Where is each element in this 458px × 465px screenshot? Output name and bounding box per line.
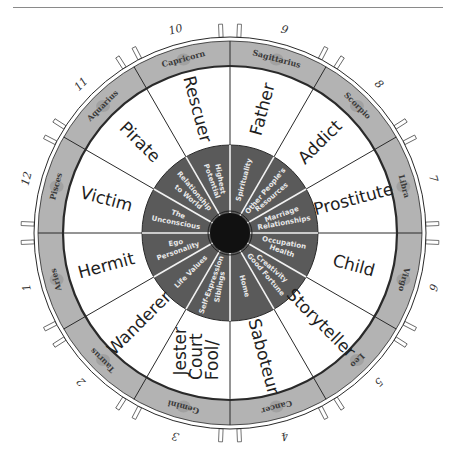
cusp-tick [318, 47, 328, 60]
house-number: 12 [19, 170, 35, 187]
cusp-tick [394, 337, 407, 347]
cusp-tick [237, 429, 242, 442]
house-number: 9 [279, 22, 289, 36]
cusp-tick [403, 135, 416, 145]
cusp-tick [219, 24, 224, 37]
cusp-tick [44, 135, 57, 145]
house-number: 10 [167, 22, 184, 38]
house-number: 4 [279, 429, 290, 444]
cusp-tick [116, 56, 126, 69]
cusp-tick [318, 406, 328, 419]
cusp-tick [334, 56, 344, 69]
archetype-label: Jester [170, 327, 190, 376]
cusp-tick [219, 429, 224, 442]
house-number: 5 [372, 375, 386, 389]
cusp-tick [21, 222, 34, 227]
cusp-tick [53, 119, 66, 129]
house-number: 7 [426, 173, 440, 183]
cusp-tick [334, 397, 344, 410]
cusp-tick [21, 240, 34, 245]
house-number: 11 [72, 75, 91, 94]
house-number: 3 [170, 429, 180, 443]
archetype-wheel: Aries1HermitEgoPersonalityTaurus2Wandere… [0, 0, 458, 465]
cusp-tick [237, 24, 242, 37]
cusp-tick [394, 119, 407, 129]
cusp-tick [403, 321, 416, 331]
cusp-tick [53, 337, 66, 347]
center-hub [208, 211, 252, 255]
cusp-tick [44, 321, 57, 331]
cusp-tick [132, 406, 142, 419]
cusp-tick [116, 397, 126, 410]
cusp-tick [132, 47, 142, 60]
cusp-tick [426, 240, 439, 245]
house-number: 2 [74, 375, 89, 390]
house-number: 6 [426, 282, 440, 292]
cusp-tick [426, 222, 439, 227]
house-number: 8 [372, 77, 386, 91]
house-number: 1 [19, 282, 33, 292]
